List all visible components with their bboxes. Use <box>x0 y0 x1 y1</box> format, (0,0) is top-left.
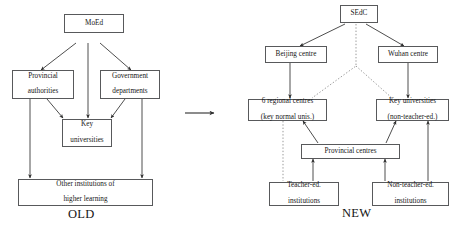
node-government-departments-label-line1: Government <box>110 73 150 81</box>
node-non-teacher-ed-institutions[interactable]: Non-teacher-ed.institutions <box>372 182 449 206</box>
node-teacher-ed-institutions[interactable]: Teacher-ed.institutions <box>269 182 339 206</box>
node-provincial-authorities-label-line2: authorities <box>26 88 61 96</box>
edge-sedc-to-wuhan-centre <box>366 24 404 46</box>
diagram-canvas: MoEd Provincialauthorities Governmentdep… <box>0 0 462 228</box>
edge-government-departments-to-key-universities <box>111 99 125 118</box>
edge-sedc-to-key-universities-new-dotted <box>356 66 392 98</box>
caption-new: NEW <box>342 206 371 221</box>
node-wuhan-centre-label: Wuhan centre <box>386 51 430 59</box>
node-government-departments-label-line2: departments <box>110 88 150 96</box>
node-regional-centres[interactable]: 6 regional centres(key normal unis.) <box>248 99 327 121</box>
node-regional-centres-label-line2: (key normal unis.) <box>259 114 316 122</box>
node-sedc[interactable]: SEdC <box>340 5 378 23</box>
node-wuhan-centre[interactable]: Wuhan centre <box>378 46 438 63</box>
node-key-universities-new[interactable]: Key universities(non-teacher-ed.) <box>376 99 449 121</box>
node-moed-label: MoEd <box>83 20 105 28</box>
edge-sedc-to-beijing-centre <box>300 24 345 46</box>
edge-moed-to-government-departments <box>100 43 131 70</box>
node-regional-centres-label-line1: 6 regional centres <box>259 98 316 106</box>
node-key-universities-new-label-line2: (non-teacher-ed.) <box>386 114 440 122</box>
node-beijing-centre-label: Beijing centre <box>274 51 319 59</box>
node-provincial-centres-label: Provincial centres <box>322 148 378 156</box>
edge-provincial-centres-to-regional-centres <box>303 121 318 143</box>
node-provincial-authorities[interactable]: Provincialauthorities <box>12 70 74 99</box>
caption-old: OLD <box>68 207 95 222</box>
node-sedc-label: SEdC <box>349 10 370 18</box>
node-teacher-ed-institutions-label-line2: institutions <box>285 198 323 206</box>
node-other-institutions-label-line2: higher learning <box>54 196 116 204</box>
node-non-teacher-ed-institutions-label-line1: Non-teacher-ed. <box>385 182 436 190</box>
edge-provincial-authorities-to-key-universities <box>47 99 63 118</box>
node-other-institutions-label-line1: Other institutions of <box>54 181 116 189</box>
edge-provincial-centres-to-key-universities-new <box>386 121 396 143</box>
node-key-universities[interactable]: Keyuniversities <box>62 119 112 147</box>
node-other-institutions[interactable]: Other institutions ofhigher learning <box>18 179 153 206</box>
node-moed[interactable]: MoEd <box>64 14 124 33</box>
node-key-universities-label-line2: universities <box>68 137 105 145</box>
node-provincial-centres[interactable]: Provincial centres <box>301 144 400 159</box>
node-government-departments[interactable]: Governmentdepartments <box>100 70 160 99</box>
node-provincial-authorities-label-line1: Provincial <box>26 73 61 81</box>
node-key-universities-new-label-line1: Key universities <box>386 98 440 106</box>
node-key-universities-label-line1: Key <box>68 121 105 129</box>
node-non-teacher-ed-institutions-label-line2: institutions <box>385 198 436 206</box>
edge-moed-to-provincial-authorities <box>41 43 76 70</box>
node-beijing-centre[interactable]: Beijing centre <box>265 46 327 63</box>
node-teacher-ed-institutions-label-line1: Teacher-ed. <box>285 182 323 190</box>
